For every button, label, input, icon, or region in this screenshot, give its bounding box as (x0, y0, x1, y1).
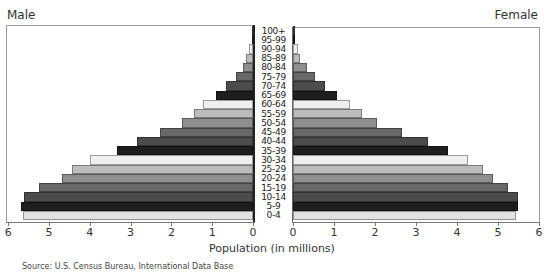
male-bar-55-59 (194, 109, 253, 118)
female-bar-15-19 (293, 183, 508, 192)
age-label: 30-34 (254, 156, 293, 165)
female-bar-30-34 (293, 155, 468, 164)
age-label: 5-9 (254, 202, 293, 211)
age-label: 90-94 (254, 45, 293, 54)
female-bar-60-64 (293, 100, 350, 109)
age-label: 70-74 (254, 82, 293, 91)
male-bar-5-9 (21, 202, 253, 211)
male-bar-50-54 (182, 118, 253, 127)
age-label: 0-4 (254, 211, 293, 220)
x-axis-label: Population (in millions) (0, 242, 544, 255)
female-bar-70-74 (293, 81, 325, 90)
female-bar-80-84 (293, 63, 307, 72)
male-zero-axis (253, 25, 255, 223)
age-label: 50-54 (254, 119, 293, 128)
age-label: 100+ (254, 27, 293, 36)
female-bar-20-24 (293, 174, 493, 183)
male-tick-label: 1 (202, 226, 222, 239)
female-bar-75-79 (293, 72, 315, 81)
source-note: Source: U.S. Census Bureau, Internationa… (22, 262, 233, 271)
male-bar-75-79 (236, 72, 253, 81)
male-bar-65-69 (216, 91, 253, 100)
male-tick-label: 6 (0, 226, 18, 239)
female-zero-axis (292, 27, 293, 223)
age-label: 25-29 (254, 165, 293, 174)
male-bar-85-89 (246, 54, 253, 63)
female-tick-label: 6 (529, 226, 544, 239)
male-bar-45-49 (160, 128, 253, 137)
male-bar-25-29 (72, 165, 253, 174)
female-bar-25-29 (293, 165, 483, 174)
age-label: 40-44 (254, 137, 293, 146)
female-bar-45-49 (293, 128, 402, 137)
male-tick-label: 4 (80, 226, 100, 239)
age-label: 80-84 (254, 63, 293, 72)
female-bar-40-44 (293, 137, 428, 146)
female-bar-85-89 (293, 54, 300, 63)
female-bar-35-39 (293, 146, 448, 155)
age-label: 15-19 (254, 184, 293, 193)
male-title: Male (7, 8, 35, 22)
male-bar-20-24 (62, 174, 253, 183)
male-tick-label: 5 (39, 226, 59, 239)
male-bar-15-19 (39, 183, 253, 192)
female-bar-95-99 (293, 35, 295, 44)
female-bar-100+ (293, 26, 295, 35)
male-bar-0-4 (23, 211, 253, 220)
male-bar-70-74 (226, 81, 253, 90)
age-label: 65-69 (254, 91, 293, 100)
age-label: 85-89 (254, 54, 293, 63)
male-tick-label: 0 (243, 226, 263, 239)
female-tick-label: 5 (488, 226, 508, 239)
female-bar-0-4 (293, 211, 516, 220)
female-title: Female (495, 8, 538, 22)
age-label: 10-14 (254, 193, 293, 202)
female-tick-label: 4 (447, 226, 467, 239)
male-bar-35-39 (117, 146, 253, 155)
male-bar-40-44 (137, 137, 253, 146)
age-label: 20-24 (254, 174, 293, 183)
female-tick-label: 1 (324, 226, 344, 239)
age-label: 55-59 (254, 110, 293, 119)
age-label: 45-49 (254, 128, 293, 137)
female-bar-5-9 (293, 202, 518, 211)
age-label: 35-39 (254, 147, 293, 156)
female-tick-label: 0 (283, 226, 303, 239)
male-tick-label: 3 (121, 226, 141, 239)
female-tick-label: 3 (406, 226, 426, 239)
age-label: 75-79 (254, 73, 293, 82)
female-bar-50-54 (293, 118, 377, 127)
female-bar-10-14 (293, 192, 518, 201)
male-bar-10-14 (24, 192, 253, 201)
age-label: 60-64 (254, 100, 293, 109)
male-bar-30-34 (90, 155, 253, 164)
female-bar-55-59 (293, 109, 362, 118)
male-bar-60-64 (203, 100, 253, 109)
male-bar-80-84 (243, 63, 253, 72)
male-tick-label: 2 (161, 226, 181, 239)
female-bar-65-69 (293, 91, 337, 100)
age-label: 95-99 (254, 36, 293, 45)
female-tick-label: 2 (365, 226, 385, 239)
female-bar-90-94 (293, 44, 298, 53)
